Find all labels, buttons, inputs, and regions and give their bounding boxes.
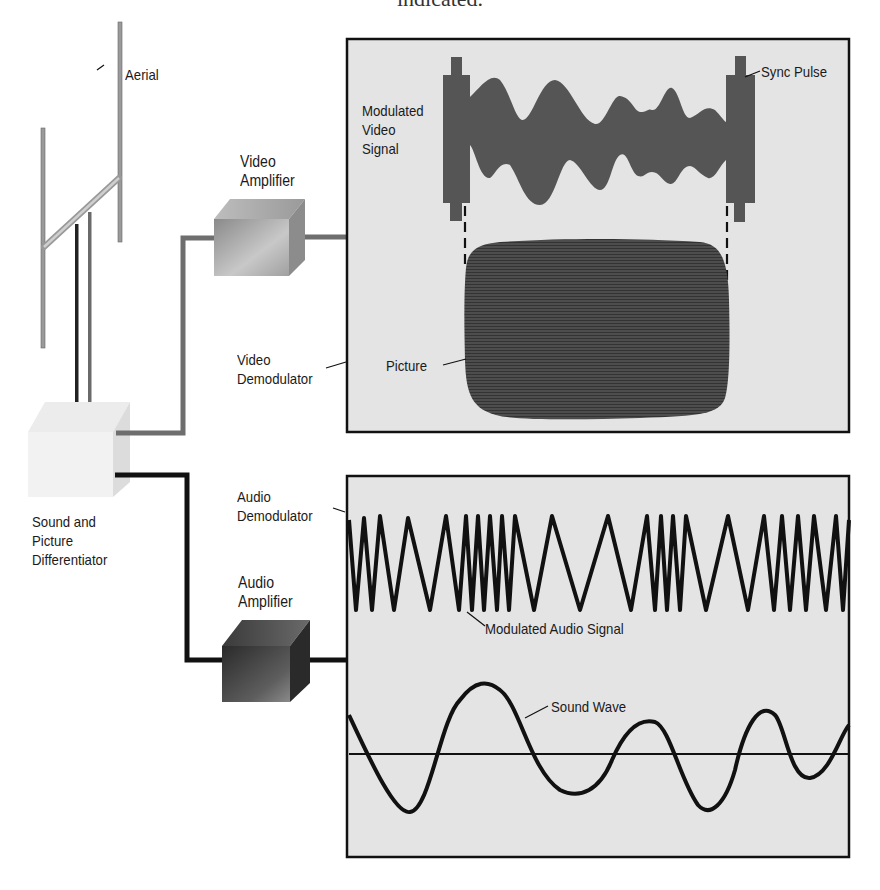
audio-panel — [333, 476, 849, 857]
picture-label: Picture — [386, 356, 427, 375]
audio-amplifier-label: Audio Amplifier — [238, 573, 293, 611]
differentiator-label: Sound and Picture Differentiator — [32, 512, 107, 569]
modulated-video-signal-line1: Modulated — [362, 101, 424, 120]
modulated-audio-signal-label: Modulated Audio Signal — [485, 619, 624, 638]
modulated-video-signal-label: Modulated Video Signal — [362, 101, 424, 158]
video-demodulator-label-line2: Demodulator — [237, 369, 313, 388]
sync-pulse-label: Sync Pulse — [761, 62, 827, 81]
modulated-video-signal-line3: Signal — [362, 139, 424, 158]
video-wire — [116, 238, 214, 433]
audio-demodulator-label: Audio Demodulator — [237, 487, 313, 525]
video-amplifier-label: Video Amplifier — [240, 152, 295, 190]
differentiator-label-line3: Differentiator — [32, 550, 107, 569]
audio-wire — [115, 475, 222, 660]
audio-amplifier-box — [222, 620, 310, 702]
picture-screen — [464, 239, 729, 419]
aerial — [41, 22, 122, 404]
video-demodulator-label: Video Demodulator — [237, 350, 313, 388]
audio-demodulator-label-line1: Audio — [237, 487, 313, 506]
aerial-label: Aerial — [125, 65, 159, 84]
differentiator-label-line1: Sound and — [32, 512, 107, 531]
diagram-canvas — [0, 0, 880, 890]
modulated-video-signal-line2: Video — [362, 120, 424, 139]
sound-wave-label: Sound Wave — [551, 697, 626, 716]
differentiator-label-line2: Picture — [32, 531, 107, 550]
video-amplifier-label-line1: Video — [240, 152, 295, 171]
audio-demodulator-label-line2: Demodulator — [237, 506, 313, 525]
video-amplifier-box — [214, 199, 305, 276]
video-amplifier-label-line2: Amplifier — [240, 171, 295, 190]
audio-amplifier-label-line1: Audio — [238, 573, 293, 592]
differentiator-box — [28, 402, 130, 497]
video-demodulator-label-line1: Video — [237, 350, 313, 369]
audio-amplifier-label-line2: Amplifier — [238, 592, 293, 611]
